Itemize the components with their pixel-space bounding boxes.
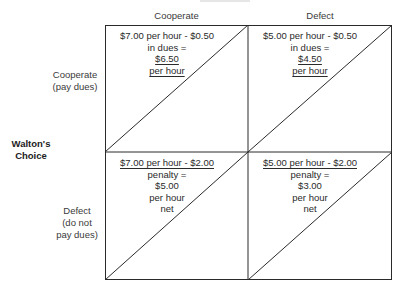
column-header-defect: Defect — [248, 10, 392, 21]
cell-cooperate-cooperate: $7.00 per hour - $0.50 in dues = $6.50 p… — [109, 30, 225, 76]
row-label-cooperate-line2: (pay dues) — [46, 81, 104, 93]
cell-dc-line4: per hour — [109, 192, 225, 204]
row-axis-title: Walton's Choice — [2, 138, 60, 162]
cell-dc-line5: net — [109, 203, 225, 215]
cell-dc-line2: penalty = — [109, 169, 225, 181]
cell-dd-result: $3.00 — [252, 180, 368, 192]
payoff-matrix: $7.00 per hour - $0.50 in dues = $6.50 p… — [105, 25, 392, 280]
row-axis-title-line2: Choice — [2, 150, 60, 162]
column-header-cooperate: Cooperate — [105, 10, 248, 21]
cell-dd-line4: per hour — [252, 192, 368, 204]
cell-cc-line2: in dues = — [109, 42, 225, 54]
row-label-defect-line3: pay dues) — [50, 229, 104, 241]
cell-dd-line2: penalty = — [252, 169, 368, 181]
cell-cd-line4: per hour — [252, 65, 368, 77]
cell-cooperate-defect: $5.00 per hour - $0.50 in dues = $4.50 p… — [252, 30, 368, 76]
row-axis-title-line1: Walton's — [2, 138, 60, 150]
cell-dd-line1: $5.00 per hour - $2.00 — [252, 157, 368, 169]
row-label-cooperate-line1: Cooperate — [46, 69, 104, 81]
cell-defect-cooperate: $7.00 per hour - $2.00 penalty = $5.00 p… — [109, 157, 225, 215]
cell-cc-line4: per hour — [109, 65, 225, 77]
cell-dc-line1: $7.00 per hour - $2.00 — [109, 157, 225, 169]
row-label-defect: Defect (do not pay dues) — [50, 205, 104, 241]
cell-cd-result: $4.50 — [252, 53, 368, 65]
cell-dd-line5: net — [252, 203, 368, 215]
row-label-defect-line2: (do not — [50, 217, 104, 229]
row-label-cooperate: Cooperate (pay dues) — [46, 69, 104, 93]
cropped-top-label — [0, 0, 404, 8]
cell-cc-result: $6.50 — [109, 53, 225, 65]
cell-dc-result: $5.00 — [109, 180, 225, 192]
cell-cd-line2: in dues = — [252, 42, 368, 54]
cell-defect-defect: $5.00 per hour - $2.00 penalty = $3.00 p… — [252, 157, 368, 215]
row-label-defect-line1: Defect — [50, 205, 104, 217]
cell-cc-line1: $7.00 per hour - $0.50 — [109, 30, 225, 42]
cell-cd-line1: $5.00 per hour - $0.50 — [252, 30, 368, 42]
